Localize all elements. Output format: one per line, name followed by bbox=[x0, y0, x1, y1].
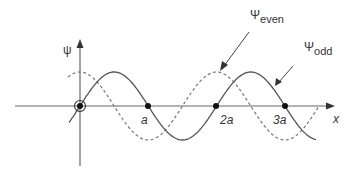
psi-odd-pointer bbox=[279, 66, 293, 82]
x-axis-arrow-icon bbox=[326, 103, 335, 110]
node-dot-2a bbox=[213, 103, 219, 109]
psi-even-label: Ψeven bbox=[250, 9, 284, 21]
x-axis-label: x bbox=[333, 113, 339, 125]
tick-label-2a: 2a bbox=[220, 114, 233, 126]
psi-even-symbol: Ψ bbox=[250, 8, 260, 22]
psi-odd-label: Ψodd bbox=[304, 41, 332, 53]
y-axis-label: ψ bbox=[63, 44, 72, 56]
tick-label-3a: 3a bbox=[273, 114, 286, 126]
tick-label-a: a bbox=[141, 114, 148, 126]
y-axis-arrow-icon bbox=[77, 39, 84, 48]
psi-even-subscript: even bbox=[260, 13, 284, 25]
psi-odd-subscript: odd bbox=[314, 45, 332, 57]
node-dot-3a bbox=[282, 103, 288, 109]
node-dot-a bbox=[145, 103, 151, 109]
psi-even-pointer bbox=[224, 32, 249, 66]
wavefunction-diagram bbox=[0, 0, 353, 174]
psi-odd-symbol: Ψ bbox=[304, 40, 314, 54]
origin-dot bbox=[77, 103, 83, 109]
